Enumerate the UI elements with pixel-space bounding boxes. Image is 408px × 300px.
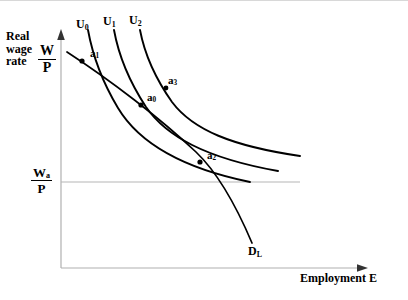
point-a2-marker [197,159,202,164]
curve-label-u0: U0 [76,18,89,31]
y-axis-title-line1: Real [6,30,32,43]
reservation-wage-numerator: Wa [31,166,52,181]
y-axis-arrowhead [57,29,65,40]
point-label-a0: a0 [147,92,156,104]
point-a1-marker [79,58,84,63]
point-label-a3: a3 [168,75,177,87]
y-axis-unit-denominator: P [38,60,56,75]
indifference-curve-u2 [140,30,300,156]
indifference-curve-figure: Real wage rate W P Wa P U0 U1 U2 a1 a0 a… [0,0,408,300]
y-axis-unit-numerator: W [38,44,56,60]
y-axis-unit-fraction: W P [38,44,56,76]
point-label-a1: a1 [90,48,99,60]
y-axis-title: Real wage rate [6,30,32,68]
curve-label-u1: U1 [103,15,116,28]
diagram-canvas [0,0,408,300]
y-axis-title-line3: rate [6,55,32,68]
indifference-curve-u1 [114,30,278,171]
curve-label-u2: U2 [129,14,142,27]
reservation-wage-denominator: P [31,181,52,195]
reservation-wage-tick-label: Wa P [31,166,52,196]
x-axis-title: Employment E [300,272,377,285]
point-label-a2: a2 [207,150,216,162]
point-a0-marker [138,102,143,107]
curve-label-dl: DL [248,245,262,258]
